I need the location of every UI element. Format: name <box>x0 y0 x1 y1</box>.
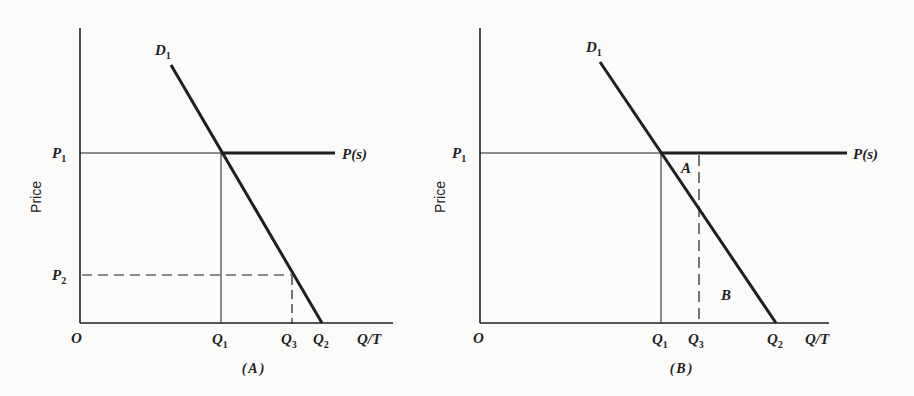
panel-a-q2-label: Q2 <box>313 331 329 350</box>
figure-canvas: D1 P(s) P1 P2 Price O Q1 Q3 Q2 Q/T (A) <box>0 0 914 396</box>
panel-b-region-b-label: B <box>720 287 731 303</box>
panel-a-demand-label: D1 <box>154 42 171 61</box>
panel-a-demand-curve <box>171 65 322 323</box>
panel-b-demand-curve <box>600 62 776 323</box>
panel-a-caption: (A) <box>242 361 267 377</box>
panel-b-supply-label: P(s) <box>853 146 878 163</box>
panel-b-caption: (B) <box>670 361 695 377</box>
panel-b-demand-label: D1 <box>585 39 602 58</box>
panel-b: D1 P(s) P1 Price A B O Q1 Q3 Q2 Q/T (B) <box>432 28 878 377</box>
panel-b-region-a-label: A <box>680 160 691 176</box>
panel-b-origin-label: O <box>473 330 484 346</box>
panel-a-origin-label: O <box>71 330 82 346</box>
panel-b-q3-label: Q3 <box>688 331 704 350</box>
panel-a-y-axis-title: Price <box>28 181 44 213</box>
panel-a: D1 P(s) P1 P2 Price O Q1 Q3 Q2 Q/T (A) <box>28 28 393 377</box>
panel-a-p1-label: P1 <box>52 145 66 164</box>
panel-b-q2-label: Q2 <box>767 331 783 350</box>
panel-b-p1-label: P1 <box>452 145 466 164</box>
panel-a-x-axis-label: Q/T <box>357 331 382 347</box>
panel-b-q1-label: Q1 <box>652 331 668 350</box>
panel-a-p2-label: P2 <box>52 267 66 286</box>
panel-a-supply-label: P(s) <box>342 146 367 163</box>
panel-b-y-axis-title: Price <box>432 181 448 213</box>
panel-b-x-axis-label: Q/T <box>805 331 830 347</box>
panel-a-q1-label: Q1 <box>212 331 228 350</box>
panel-a-q3-label: Q3 <box>281 331 297 350</box>
